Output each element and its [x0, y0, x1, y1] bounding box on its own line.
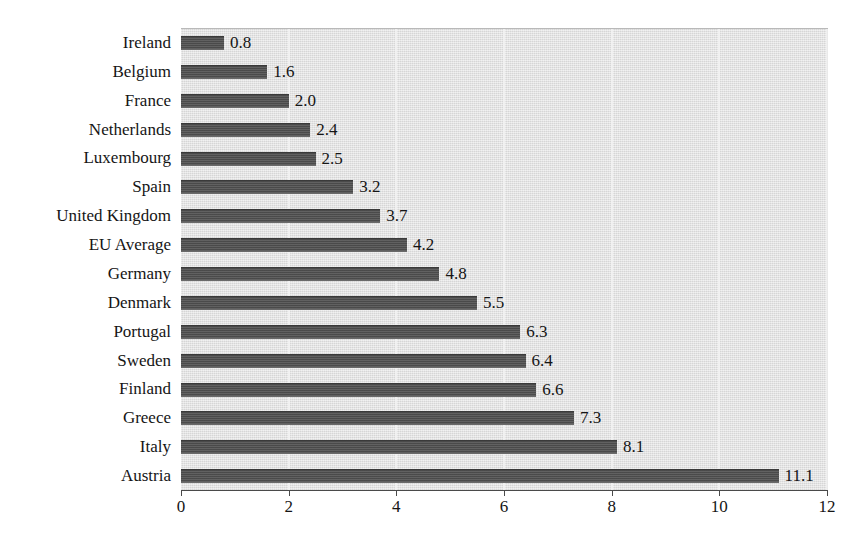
category-label: Austria — [0, 467, 176, 484]
x-axis-tick — [181, 490, 182, 496]
category-label: EU Average — [0, 236, 176, 253]
bar — [181, 469, 779, 483]
bar-value-label: 6.3 — [520, 318, 547, 346]
category-label: Finland — [0, 380, 176, 397]
bar-value-label: 2.5 — [316, 145, 343, 173]
bar-row: 0.8 — [181, 29, 827, 58]
category-label: United Kingdom — [0, 207, 176, 224]
bar — [181, 238, 407, 252]
x-axis-tick-label: 0 — [177, 498, 186, 515]
category-label: Germany — [0, 265, 176, 282]
category-label: Spain — [0, 178, 176, 195]
x-axis-tick-label: 4 — [392, 498, 401, 515]
bar-value-label: 3.7 — [380, 202, 407, 230]
bar-value-label: 2.0 — [289, 87, 316, 115]
bar-row: 6.3 — [181, 318, 827, 347]
category-label: France — [0, 92, 176, 109]
bar — [181, 440, 617, 454]
bar-value-label: 4.2 — [407, 231, 434, 259]
x-axis-tick-label: 2 — [284, 498, 293, 515]
category-label: Greece — [0, 409, 176, 426]
bar — [181, 36, 224, 50]
bar-row: 7.3 — [181, 404, 827, 433]
bar — [181, 383, 536, 397]
bar — [181, 354, 526, 368]
bar — [181, 123, 310, 137]
bar-row: 3.2 — [181, 173, 827, 202]
bar-value-label: 2.4 — [310, 116, 337, 144]
bar-row: 4.8 — [181, 260, 827, 289]
x-axis-tick-label: 12 — [819, 498, 836, 515]
bar — [181, 411, 574, 425]
category-label: Ireland — [0, 34, 176, 51]
x-axis-tick — [289, 490, 290, 496]
bar-value-label: 6.4 — [526, 347, 553, 375]
x-axis-tick — [827, 490, 828, 496]
bar — [181, 296, 477, 310]
bar-value-label: 7.3 — [574, 404, 601, 432]
category-axis: IrelandBelgiumFranceNetherlandsLuxembour… — [0, 28, 176, 490]
bar — [181, 209, 380, 223]
category-label: Italy — [0, 438, 176, 455]
bar — [181, 65, 267, 79]
bar-row: 6.6 — [181, 376, 827, 405]
bar-value-label: 1.6 — [267, 58, 294, 86]
bar-row: 2.0 — [181, 87, 827, 116]
bar — [181, 325, 520, 339]
x-axis-tick-label: 10 — [711, 498, 728, 515]
bar-value-label: 4.8 — [439, 260, 466, 288]
bar-row: 2.5 — [181, 145, 827, 174]
bar-value-label: 3.2 — [353, 173, 380, 201]
bar — [181, 152, 316, 166]
bar-row: 3.7 — [181, 202, 827, 231]
bar-row: 6.4 — [181, 347, 827, 376]
plot-area: 0.81.62.02.42.53.23.74.24.85.56.36.46.67… — [181, 28, 828, 491]
category-label: Sweden — [0, 352, 176, 369]
bar-row: 11.1 — [181, 462, 827, 491]
bar-value-label: 8.1 — [617, 433, 644, 461]
category-label: Portugal — [0, 323, 176, 340]
x-axis-tick — [612, 490, 613, 496]
x-axis-tick — [719, 490, 720, 496]
bar-row: 2.4 — [181, 116, 827, 145]
bar-row: 5.5 — [181, 289, 827, 318]
bar — [181, 94, 289, 108]
bar-value-label: 0.8 — [224, 29, 251, 57]
bar-chart: IrelandBelgiumFranceNetherlandsLuxembour… — [0, 0, 868, 546]
x-axis-tick-label: 6 — [500, 498, 509, 515]
bar-row: 1.6 — [181, 58, 827, 87]
bar-row: 8.1 — [181, 433, 827, 462]
category-label: Denmark — [0, 294, 176, 311]
bar — [181, 180, 353, 194]
x-axis-tick — [396, 490, 397, 496]
bar-value-label: 6.6 — [536, 376, 563, 404]
bar — [181, 267, 439, 281]
x-axis-tick — [504, 490, 505, 496]
category-label: Luxembourg — [0, 149, 176, 166]
category-label: Netherlands — [0, 121, 176, 138]
category-label: Belgium — [0, 63, 176, 80]
bar-value-label: 11.1 — [779, 462, 814, 490]
bar-row: 4.2 — [181, 231, 827, 260]
x-axis-tick-label: 8 — [607, 498, 616, 515]
bar-value-label: 5.5 — [477, 289, 504, 317]
